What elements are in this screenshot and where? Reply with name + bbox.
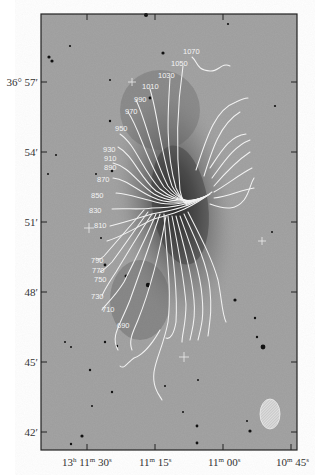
- x-tick-label-2: 11m 15s: [139, 456, 172, 468]
- contour-label-890: 890: [104, 163, 117, 172]
- contour-label-950: 950: [115, 124, 128, 133]
- contour-label-1050: 1050: [171, 59, 188, 68]
- x-tick-labels: 13h 11m 30s 11m 15s 11m 00s 10m 45s: [62, 456, 309, 468]
- contour-label-870: 870: [97, 175, 110, 184]
- y-tick-label: 45′: [25, 356, 38, 368]
- x-tick-label-4: 10m 45s: [276, 456, 309, 468]
- y-tick-label: 51′: [25, 216, 38, 228]
- contour-label-810: 810: [94, 221, 107, 230]
- contour-label-970: 970: [125, 107, 138, 116]
- beam-ellipse: [260, 399, 280, 429]
- contour-label-930: 930: [103, 145, 116, 154]
- contour-label-690: 690: [117, 321, 130, 330]
- contour-label-830: 830: [89, 206, 102, 215]
- contour-label-910: 910: [104, 154, 117, 163]
- contour-label-1070: 1070: [183, 47, 200, 56]
- y-tick-label: 36° 57′: [6, 76, 38, 88]
- contour-label-790: 790: [91, 256, 104, 265]
- contour-label-770: 770: [92, 266, 105, 275]
- contour-label-850: 850: [91, 191, 104, 200]
- contour-label-1010: 1010: [142, 82, 159, 91]
- contour-label-730: 730: [91, 292, 104, 301]
- y-tick-label: 54′: [25, 146, 38, 158]
- contour-label-710: 710: [102, 305, 115, 314]
- contour-label-1030: 1030: [158, 71, 175, 80]
- y-tick-label: 48′: [25, 286, 38, 298]
- contour-label-990: 990: [134, 95, 147, 104]
- y-tick-label: 42′: [25, 426, 38, 438]
- galaxy-velocity-field-figure: 1070 1050 1030 1010 990 970 950 930 910 …: [0, 0, 315, 475]
- contour-label-750: 750: [94, 275, 107, 284]
- x-tick-label-1: 13h 11m 30s: [62, 456, 112, 468]
- x-tick-label-3: 11m 00s: [208, 456, 241, 468]
